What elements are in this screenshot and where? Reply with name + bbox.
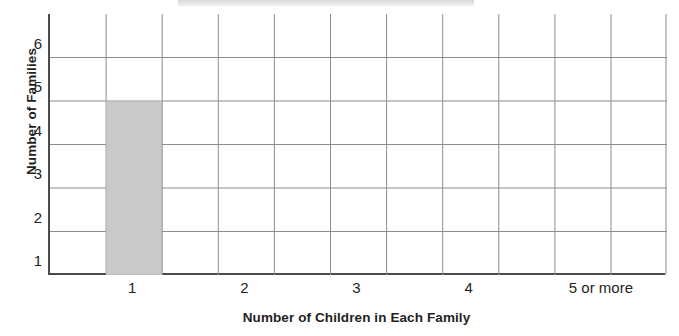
bar-chart-figure: Number of Families 6 5 4 3 2 1 [0, 0, 679, 336]
y-tick-label: 4 [20, 123, 42, 138]
x-tick-label: 3 [317, 279, 397, 297]
y-tick-label: 1 [20, 253, 42, 268]
plot-area [48, 14, 665, 275]
y-axis-tick-labels: 6 5 4 3 2 1 [18, 14, 42, 275]
x-axis-title: Number of Children in Each Family [48, 310, 665, 325]
y-tick-label: 2 [20, 210, 42, 225]
x-tick-label: 4 [429, 279, 509, 297]
y-tick-label: 5 [20, 79, 42, 94]
x-tick-label: 2 [204, 279, 284, 297]
bar-category-1 [106, 101, 162, 275]
y-tick-label: 3 [20, 166, 42, 181]
chart-title-band [178, 0, 474, 7]
x-axis-tick-labels: 1 2 3 4 5 or more [48, 279, 665, 301]
x-tick-label: 5 or more [521, 279, 679, 297]
y-tick-label: 6 [20, 36, 42, 51]
x-tick-label: 1 [92, 279, 172, 297]
